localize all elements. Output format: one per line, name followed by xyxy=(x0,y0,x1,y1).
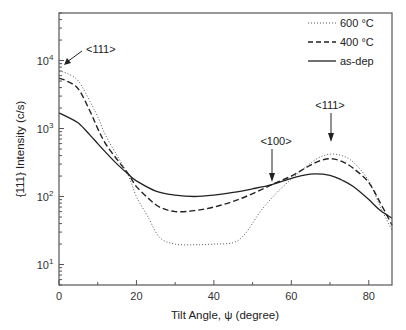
x-tick-label: 40 xyxy=(208,290,220,302)
x-axis-ticks: 020406080 xyxy=(56,280,375,302)
x-tick-label: 0 xyxy=(56,290,62,302)
series-line-as-dep xyxy=(59,113,392,218)
y-tick-label: 10 xyxy=(37,259,49,271)
legend: 600 °C 400 °C as-dep xyxy=(308,17,374,67)
svg-text:<100>: <100> xyxy=(260,135,291,147)
y-tick-exponent: 4 xyxy=(49,53,54,62)
y-axis-ticks: 101102103104 xyxy=(37,13,64,285)
arrow-icon xyxy=(64,58,71,65)
arrow-down-icon xyxy=(328,133,334,142)
legend-label-400c: 400 °C xyxy=(340,36,374,48)
x-tick-label: 80 xyxy=(363,290,375,302)
legend-label-600c: 600 °C xyxy=(340,17,374,29)
y-tick-label: 10 xyxy=(37,191,49,203)
annotation-111-right: <111> xyxy=(315,99,345,142)
y-tick-exponent: 3 xyxy=(49,121,54,130)
svg-text:<111>: <111> xyxy=(86,43,116,55)
y-axis-title: {111} Intensity (c/s) xyxy=(14,100,26,197)
intensity-vs-tilt-chart: 020406080 101102103104 Tilt Angle, ψ (de… xyxy=(0,0,406,330)
x-axis-title: Tilt Angle, ψ (degree) xyxy=(171,309,279,321)
arrow-down-icon xyxy=(269,173,275,182)
annotation-100: <100> xyxy=(260,135,291,182)
y-tick-exponent: 1 xyxy=(49,257,54,266)
svg-text:<111>: <111> xyxy=(315,99,345,111)
legend-label-as-dep: as-dep xyxy=(340,55,374,67)
series-line-600-c xyxy=(59,71,392,245)
annotation-111-left: <111> xyxy=(64,43,116,65)
x-tick-label: 60 xyxy=(285,290,297,302)
y-tick-label: 10 xyxy=(37,123,49,135)
y-tick-label: 10 xyxy=(37,55,49,67)
y-tick-exponent: 2 xyxy=(49,189,54,198)
x-tick-label: 20 xyxy=(130,290,142,302)
plot-series-group xyxy=(59,71,392,245)
